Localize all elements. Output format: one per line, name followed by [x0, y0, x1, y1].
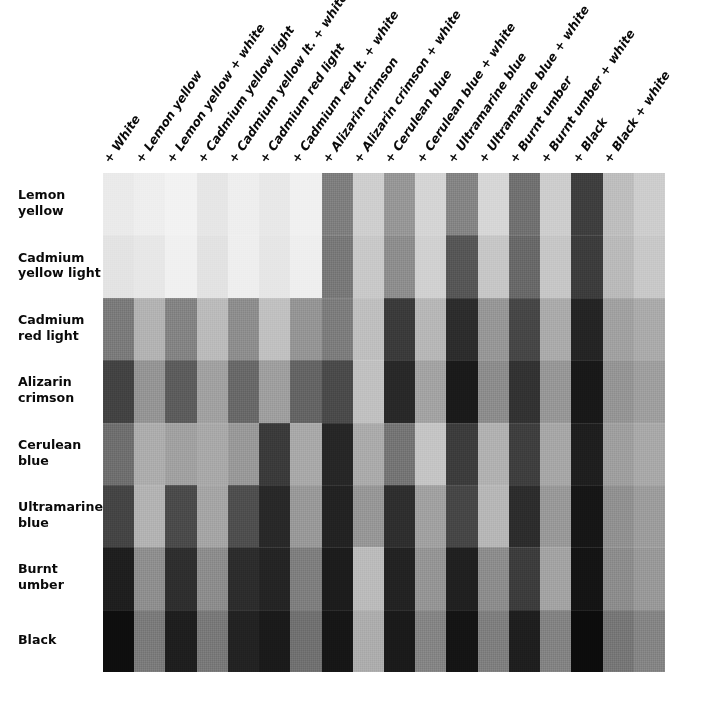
- color-swatch: [290, 423, 321, 485]
- color-swatch: [259, 485, 290, 547]
- color-swatch: [478, 173, 509, 235]
- color-swatch: [197, 360, 228, 422]
- color-swatch: [384, 547, 415, 609]
- color-swatch: [509, 610, 540, 672]
- color-swatch: [634, 360, 665, 422]
- color-swatch: [353, 173, 384, 235]
- color-swatch: [446, 610, 477, 672]
- row-header-label: Burntumber: [18, 561, 103, 593]
- color-swatch: [634, 173, 665, 235]
- color-swatch: [197, 173, 228, 235]
- color-swatch: [228, 547, 259, 609]
- color-swatch: [478, 235, 509, 297]
- color-swatch: [415, 485, 446, 547]
- color-swatch: [165, 298, 196, 360]
- color-swatch: [478, 423, 509, 485]
- color-swatch: [322, 173, 353, 235]
- color-swatch: [353, 235, 384, 297]
- color-swatch: [634, 298, 665, 360]
- color-swatch: [228, 485, 259, 547]
- color-swatch: [259, 173, 290, 235]
- color-swatch: [103, 173, 134, 235]
- color-swatch: [384, 610, 415, 672]
- color-swatch: [634, 423, 665, 485]
- color-swatch: [446, 235, 477, 297]
- color-swatch: [353, 547, 384, 609]
- color-swatch: [415, 547, 446, 609]
- color-swatch: [384, 360, 415, 422]
- color-swatch: [384, 173, 415, 235]
- color-swatch: [478, 547, 509, 609]
- color-swatch: [509, 485, 540, 547]
- color-swatch: [290, 547, 321, 609]
- color-swatch: [322, 423, 353, 485]
- row-header-label: Cadmiumyellow light: [18, 250, 103, 282]
- row-header-label: Alizarincrimson: [18, 374, 103, 406]
- color-swatch: [134, 423, 165, 485]
- color-swatch: [165, 423, 196, 485]
- color-swatch: [509, 298, 540, 360]
- color-swatch: [446, 298, 477, 360]
- color-swatch: [571, 360, 602, 422]
- color-swatch: [571, 235, 602, 297]
- color-swatch: [384, 423, 415, 485]
- color-swatch: [478, 360, 509, 422]
- row-header-label: Lemonyellow: [18, 187, 103, 219]
- color-swatch: [509, 173, 540, 235]
- color-swatch: [415, 235, 446, 297]
- color-swatch: [540, 173, 571, 235]
- color-swatch: [228, 360, 259, 422]
- color-swatch: [197, 485, 228, 547]
- color-swatch: [540, 235, 571, 297]
- color-swatch: [259, 610, 290, 672]
- color-swatch: [446, 485, 477, 547]
- color-swatch: [197, 610, 228, 672]
- color-swatch: [165, 360, 196, 422]
- color-swatch: [540, 360, 571, 422]
- color-swatch: [134, 547, 165, 609]
- color-swatch: [259, 360, 290, 422]
- color-swatch: [509, 360, 540, 422]
- color-swatch: [603, 610, 634, 672]
- color-swatch: [103, 547, 134, 609]
- color-swatch: [322, 610, 353, 672]
- color-swatch: [603, 235, 634, 297]
- color-swatch: [415, 423, 446, 485]
- color-swatch: [603, 423, 634, 485]
- color-swatch: [103, 423, 134, 485]
- color-swatch: [540, 423, 571, 485]
- color-swatch: [228, 235, 259, 297]
- color-swatch: [384, 235, 415, 297]
- color-swatch: [259, 298, 290, 360]
- color-swatch: [290, 360, 321, 422]
- color-swatch: [228, 423, 259, 485]
- color-swatch: [446, 547, 477, 609]
- color-swatch: [634, 235, 665, 297]
- color-swatch: [290, 610, 321, 672]
- color-swatch: [165, 235, 196, 297]
- color-swatch: [134, 235, 165, 297]
- color-swatch: [478, 610, 509, 672]
- color-swatch: [540, 547, 571, 609]
- column-header-area: + White+ Lemon yellow+ Lemon yellow + wh…: [0, 0, 707, 173]
- color-swatch: [134, 485, 165, 547]
- color-swatch: [103, 235, 134, 297]
- color-swatch: [134, 610, 165, 672]
- color-swatch: [322, 485, 353, 547]
- color-swatch: [165, 610, 196, 672]
- color-swatch: [603, 173, 634, 235]
- color-swatch: [353, 423, 384, 485]
- color-swatch: [478, 298, 509, 360]
- column-header-label: + Black + white: [602, 69, 673, 165]
- color-swatch: [634, 610, 665, 672]
- color-swatch: [197, 423, 228, 485]
- color-swatch: [415, 610, 446, 672]
- row-header-label: Black: [18, 632, 103, 648]
- color-swatch: [259, 547, 290, 609]
- color-swatch: [571, 547, 602, 609]
- color-swatch: [509, 547, 540, 609]
- color-swatch: [197, 298, 228, 360]
- row-header-label: Cadmiumred light: [18, 312, 103, 344]
- color-swatch: [634, 547, 665, 609]
- color-swatch: [415, 173, 446, 235]
